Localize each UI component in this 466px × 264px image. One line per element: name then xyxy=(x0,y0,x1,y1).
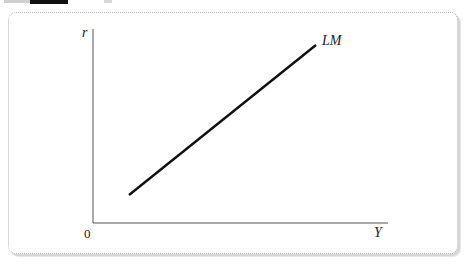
lm-curve-chart: r 0 Y LM xyxy=(0,0,466,264)
lm-curve xyxy=(129,45,316,195)
x-axis-label: Y xyxy=(374,225,384,240)
origin-label: 0 xyxy=(84,226,91,241)
lm-curve-label: LM xyxy=(321,33,343,48)
y-axis-label: r xyxy=(82,25,88,40)
